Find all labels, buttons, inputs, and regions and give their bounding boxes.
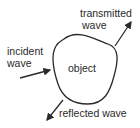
- incident-label-line2: wave: [7, 58, 32, 69]
- incident-arrow: [20, 70, 50, 78]
- transmitted-arrow: [115, 22, 131, 46]
- object-label: object: [68, 63, 96, 74]
- reflected-label: reflected wave: [59, 108, 127, 119]
- incident-label-line1: incident: [7, 46, 43, 57]
- wave-scattering-diagram: transmitted wave incident wave object re…: [0, 0, 140, 128]
- transmitted-label-line2: wave: [82, 20, 107, 31]
- transmitted-label-line1: transmitted: [80, 8, 132, 19]
